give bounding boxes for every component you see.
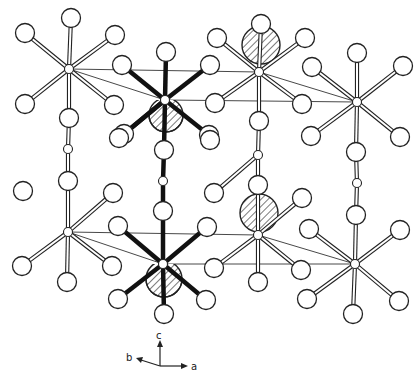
atom — [206, 94, 225, 113]
center-atom — [159, 260, 168, 269]
bond-inner — [355, 264, 392, 295]
bond-inner — [355, 235, 393, 264]
atom — [197, 291, 216, 310]
c-axis-label: c — [156, 330, 162, 341]
atom — [62, 9, 81, 28]
crystal-structure-diagram: c b a — [0, 0, 420, 380]
bond-inner — [318, 102, 357, 131]
bond-inner — [29, 232, 68, 261]
b-axis-arrow — [141, 360, 160, 366]
bond-inner — [316, 234, 355, 264]
atom — [300, 220, 319, 239]
atom — [302, 127, 321, 146]
atom — [391, 221, 410, 240]
bond-inner — [355, 224, 356, 264]
center-atom — [254, 231, 263, 240]
atom — [104, 184, 123, 203]
bond-inner — [69, 69, 107, 99]
atom — [344, 305, 363, 324]
atom — [16, 95, 35, 114]
bond-inner — [357, 72, 396, 102]
bond-inner — [68, 199, 106, 232]
atom — [390, 292, 409, 311]
atom — [106, 26, 125, 45]
atom — [208, 29, 227, 48]
bond — [165, 71, 203, 100]
atom — [58, 273, 77, 292]
atom — [347, 143, 366, 162]
atom — [155, 141, 174, 160]
atom — [298, 290, 317, 309]
atom — [201, 131, 220, 150]
bond-inner — [32, 69, 69, 98]
bond-inner — [319, 73, 357, 102]
bond-inner — [32, 39, 69, 69]
atom — [154, 202, 173, 221]
bond — [125, 232, 163, 264]
a-axis-label: a — [191, 361, 197, 372]
bond — [163, 264, 164, 305]
bond-inner — [357, 102, 393, 131]
atom — [249, 273, 268, 292]
atom — [103, 257, 122, 276]
center-atom — [159, 177, 168, 186]
atom — [347, 206, 366, 225]
center-atom — [65, 65, 74, 74]
center-atom — [64, 145, 73, 154]
atom — [109, 217, 128, 236]
atom — [60, 109, 79, 128]
bond — [163, 233, 200, 264]
atom — [394, 57, 413, 76]
bond-inner — [314, 264, 355, 294]
atom — [292, 261, 311, 280]
center-atom — [255, 68, 264, 77]
axis-indicator: c b a — [126, 330, 197, 372]
center-atom — [353, 98, 362, 107]
atom — [105, 96, 124, 115]
atom — [14, 182, 33, 201]
atom — [303, 58, 322, 77]
atom — [391, 128, 410, 147]
atom — [249, 176, 268, 195]
atom — [16, 24, 35, 43]
bond-inner — [356, 102, 357, 143]
atom — [293, 95, 312, 114]
atom — [296, 29, 315, 48]
atom — [109, 290, 128, 309]
bond-inner — [221, 235, 258, 263]
bond-inner — [68, 232, 105, 260]
bond-inner — [69, 40, 108, 69]
atom — [205, 259, 224, 278]
bond-inner — [259, 72, 295, 99]
atom — [13, 257, 32, 276]
bond-inner — [222, 72, 259, 98]
bond — [129, 71, 165, 100]
b-arrowhead-icon — [136, 357, 143, 363]
a-arrowhead-icon — [181, 363, 188, 369]
atom — [198, 218, 217, 237]
bond-inner — [258, 235, 294, 264]
b-axis-label: b — [126, 352, 132, 363]
bond — [165, 61, 166, 100]
center-atom — [353, 179, 362, 188]
atom — [252, 15, 271, 34]
center-atom — [161, 96, 170, 105]
atom — [113, 56, 132, 75]
center-atom — [254, 151, 263, 160]
bond — [164, 100, 165, 141]
center-atom — [64, 228, 73, 237]
atom — [59, 172, 78, 191]
center-atom — [351, 260, 360, 269]
atom — [157, 43, 176, 62]
atom — [110, 129, 129, 148]
atom — [250, 112, 269, 131]
atom — [293, 189, 312, 208]
c-arrowhead-icon — [157, 340, 163, 347]
bond-inner — [67, 232, 68, 273]
atom — [201, 56, 220, 75]
atom — [348, 44, 367, 63]
atom — [155, 305, 174, 324]
atom — [205, 184, 224, 203]
